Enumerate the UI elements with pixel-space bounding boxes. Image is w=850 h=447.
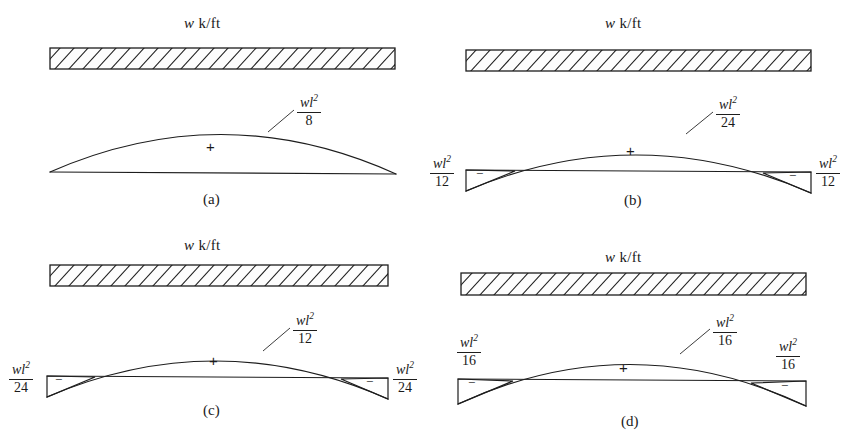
panel-c: w k/ft xyxy=(0,224,425,447)
panel-caption-d: (d) xyxy=(621,414,639,429)
support-callout-right-b: wl2 12 xyxy=(816,157,840,189)
midspan-denominator-b: 24 xyxy=(716,115,740,131)
callout-leader-a xyxy=(268,110,294,132)
midspan-callout-d: wl2 16 xyxy=(713,316,737,348)
baseline-b xyxy=(466,170,811,172)
moment-curve-a xyxy=(50,134,396,174)
support-callout-right-c: wl2 24 xyxy=(393,363,417,395)
positive-sign-d: + xyxy=(619,360,628,375)
panel-caption-c: (c) xyxy=(203,403,220,418)
midspan-callout-c: wl2 12 xyxy=(293,314,317,346)
support-denominator-left-d: 16 xyxy=(457,353,481,369)
midspan-numerator-c: wl2 xyxy=(293,314,317,331)
negative-sign-left-c: − xyxy=(55,373,62,386)
support-callout-left-b: wl2 12 xyxy=(430,157,454,189)
midspan-denominator-c: 12 xyxy=(293,331,317,347)
support-numerator-right-b: wl2 xyxy=(816,157,840,174)
midspan-numerator-b: wl2 xyxy=(716,98,740,115)
panel-a-graphics xyxy=(0,0,425,223)
moment-curve-d xyxy=(458,364,806,406)
baseline-c xyxy=(47,376,388,378)
negative-sign-right-d: − xyxy=(781,379,788,392)
figure-sheet: w k/ft xyxy=(0,0,850,447)
panel-d: w k/ft xyxy=(425,224,850,447)
midspan-denominator-a: 8 xyxy=(297,113,321,129)
callout-leader-b xyxy=(686,112,713,134)
negative-sign-left-b: − xyxy=(476,167,483,180)
support-numerator-right-c: wl2 xyxy=(393,363,417,380)
panel-caption-a: (a) xyxy=(203,192,220,207)
midspan-numerator-d: wl2 xyxy=(713,316,737,333)
support-denominator-right-b: 12 xyxy=(816,174,840,190)
uniform-load-block-a xyxy=(40,47,411,70)
support-denominator-right-c: 24 xyxy=(393,380,417,396)
positive-sign-b: + xyxy=(626,143,635,158)
panel-a: w k/ft xyxy=(0,0,425,223)
midspan-denominator-d: 16 xyxy=(713,333,737,349)
panel-b: w k/ft xyxy=(425,0,850,223)
support-numerator-left-c: wl2 xyxy=(9,363,33,380)
negative-sign-left-d: − xyxy=(468,376,475,389)
support-denominator-right-d: 16 xyxy=(776,357,800,373)
negative-sign-right-b: − xyxy=(789,169,796,182)
panel-b-graphics xyxy=(425,0,850,223)
callout-leader-d xyxy=(680,329,710,354)
support-triangle-left-d xyxy=(458,379,513,404)
midspan-numerator-a: wl2 xyxy=(297,96,321,113)
support-triangle-right-c xyxy=(341,378,388,399)
support-callout-left-c: wl2 24 xyxy=(9,363,33,395)
panel-caption-b: (b) xyxy=(624,193,642,208)
support-numerator-left-d: wl2 xyxy=(457,336,481,353)
callout-leader-c xyxy=(263,328,290,351)
support-triangle-left-b xyxy=(466,170,515,191)
uniform-load-block-b xyxy=(456,49,827,72)
midspan-callout-b: wl2 24 xyxy=(716,98,740,130)
negative-sign-right-c: − xyxy=(366,375,373,388)
support-numerator-right-d: wl2 xyxy=(776,340,800,357)
uniform-load-block-c xyxy=(40,264,397,287)
support-triangle-right-b xyxy=(763,172,811,193)
positive-sign-a: + xyxy=(206,139,215,154)
positive-sign-c: + xyxy=(209,353,218,368)
midspan-callout-a: wl2 8 xyxy=(297,96,321,128)
support-callout-left-d: wl2 16 xyxy=(457,336,481,368)
support-denominator-left-c: 24 xyxy=(9,380,33,396)
moment-curve-b xyxy=(466,155,811,193)
support-callout-right-d: wl2 16 xyxy=(776,340,800,372)
baseline-a xyxy=(50,172,396,174)
support-numerator-left-b: wl2 xyxy=(430,157,454,174)
uniform-load-block-d xyxy=(451,272,823,296)
support-denominator-left-b: 12 xyxy=(430,174,454,190)
